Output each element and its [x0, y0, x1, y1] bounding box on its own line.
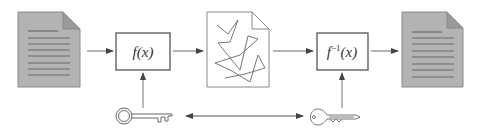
key-skeleton-icon: [116, 108, 172, 124]
ciphertext-document-icon: [207, 12, 269, 87]
recovered-document-icon: [402, 12, 463, 87]
key-modern-icon: [311, 109, 361, 125]
encryption-diagram: f(x) f−1(x): [0, 0, 482, 135]
encrypt-function-label: f(x): [133, 44, 154, 61]
plaintext-document-icon: [18, 12, 80, 87]
encrypt-function-box: f(x): [116, 33, 170, 70]
decrypt-function-box: f−1(x): [317, 33, 368, 70]
